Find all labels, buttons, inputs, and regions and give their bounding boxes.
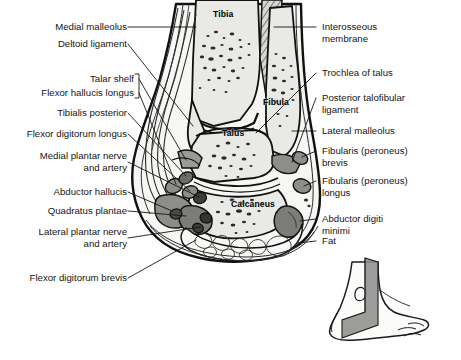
bone-label-calcaneus: Calcaneus bbox=[231, 199, 275, 209]
label-trochlea-of-talus: Trochlea of talus bbox=[322, 67, 393, 79]
label-flexor-digitorum-brevis: Flexor digitorum brevis bbox=[30, 272, 128, 284]
label-posterior-talofibular-ligament: Posterior talofibular ligament bbox=[322, 92, 405, 115]
label-fibularis-peroneus-longus: Fibularis (peroneus) longus bbox=[322, 175, 408, 198]
label-flexor-hallucis-longus: Flexor hallucis longus bbox=[41, 87, 134, 99]
label-lateral-malleolus: Lateral malleolus bbox=[322, 125, 395, 137]
label-abductor-hallucis: Abductor hallucis bbox=[54, 186, 127, 198]
bone-label-tibia: Tibia bbox=[213, 9, 233, 19]
label-flexor-digitorum-longus: Flexor digitorum longus bbox=[27, 128, 127, 140]
label-fibularis-peroneus-brevis: Fibularis (peroneus) brevis bbox=[322, 145, 408, 168]
label-quadratus-plantae: Quadratus plantae bbox=[48, 205, 127, 217]
label-medial-malleolus: Medial malleolus bbox=[55, 21, 127, 33]
label-talar-shelf: Talar shelf bbox=[90, 73, 134, 85]
bone-label-fibula: Fibula bbox=[263, 97, 289, 107]
label-abductor-digiti-minimi: Abductor digiti minimi bbox=[322, 213, 383, 236]
label-lateral-plantar-nerve-and-artery: Lateral plantar nerve and artery bbox=[39, 226, 127, 249]
label-interosseous-membrane: Interosseous membrane bbox=[322, 21, 377, 44]
label-tibialis-posterior: Tibialis posterior bbox=[57, 107, 127, 119]
anatomy-figure: Medial malleolus Deltoid ligament Talar … bbox=[0, 0, 461, 360]
bone-label-talus: Talus bbox=[222, 128, 244, 138]
label-medial-plantar-nerve-and-artery: Medial plantar nerve and artery bbox=[40, 150, 127, 173]
label-deltoid-ligament: Deltoid ligament bbox=[58, 38, 127, 50]
label-fat: Fat bbox=[322, 235, 336, 247]
